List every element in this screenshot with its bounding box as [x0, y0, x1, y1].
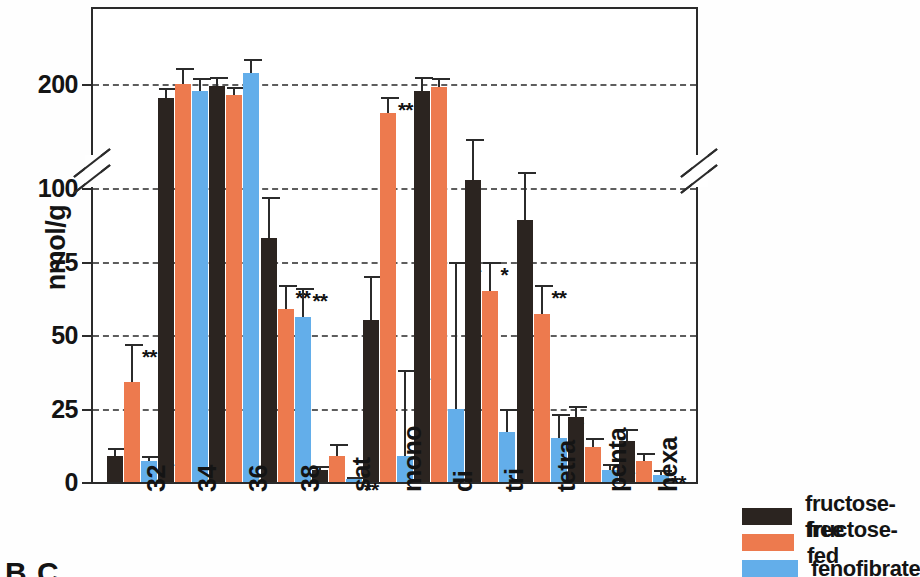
y-tick-label-25: 25	[51, 394, 78, 423]
tick-mark-75	[82, 262, 93, 264]
significance-marker-32-fructose-fed: **	[142, 346, 156, 367]
error-bar-34-fructose-free	[165, 88, 167, 98]
bar-group-hexa: **	[619, 9, 669, 482]
bar-tetra-fructose-fed	[534, 314, 550, 482]
tick-mark-200	[82, 84, 93, 86]
error-bar-mono-fructose-fed	[387, 97, 389, 113]
bar-34-fenofibrate	[192, 91, 208, 482]
bar-group-32: ****	[107, 9, 157, 482]
error-bar-tri-fenofibrate	[506, 409, 508, 433]
error-bar-tetra-fructose-free	[524, 172, 526, 220]
bar-fill	[209, 86, 225, 482]
error-bar-34-fructose-fed	[182, 68, 184, 84]
error-bar-32-fructose-fed	[131, 344, 133, 382]
tick-mark-25	[82, 409, 93, 411]
bar-tri-fructose-free	[465, 180, 481, 482]
x-tick-label-sat: sat	[347, 457, 376, 492]
error-bar-tri-fructose-fed	[489, 262, 491, 291]
bar-fill	[431, 87, 447, 482]
error-bar-tetra-fenofibrate	[558, 414, 560, 438]
error-bar-tri-fructose-free	[472, 139, 474, 180]
bar-32-fructose-fed	[124, 382, 140, 482]
y-tick-label-200: 200	[38, 70, 78, 99]
error-bar-38-fenofibrate	[302, 288, 304, 317]
error-bar-penta-fructose-free	[575, 406, 577, 418]
significance-marker-tri-fructose-fed: *	[500, 264, 507, 285]
error-bar-mono-fructose-free	[370, 276, 372, 320]
bar-34-fructose-free	[158, 98, 174, 482]
legend-swatch-fructose-free	[742, 508, 792, 525]
bar-mono-fructose-fed	[380, 113, 396, 482]
bar-fill	[278, 309, 294, 482]
bar-group-mono: ****	[363, 9, 413, 482]
bar-38-fructose-fed	[278, 309, 294, 482]
bar-group-tetra: ****	[517, 9, 567, 482]
bar-34-fructose-fed	[175, 84, 191, 482]
legend-item-fructose-fed: fructose-fed	[742, 531, 920, 554]
bar-fill	[243, 73, 259, 482]
error-bar-di-fenofibrate	[455, 262, 457, 409]
bar-38-fenofibrate	[295, 317, 311, 482]
bar-group-38: ****	[261, 9, 311, 482]
y-tick-label-50: 50	[51, 321, 78, 350]
x-tick-label-tetra: tetra	[552, 440, 581, 492]
bar-fill	[380, 113, 396, 482]
bar-fill	[414, 91, 430, 482]
bar-fill	[158, 98, 174, 482]
error-bar-hexa-fructose-fed	[643, 453, 645, 462]
bar-36-fructose-fed	[226, 95, 242, 482]
bar-fill	[295, 317, 311, 482]
x-tick-label-tri: tri	[500, 469, 529, 493]
bar-group-34	[158, 9, 208, 482]
bar-group-36	[209, 9, 259, 482]
x-tick-label-36: 36	[244, 465, 273, 492]
bar-fill	[329, 456, 345, 482]
bar-di-fructose-free	[414, 91, 430, 482]
error-bar-penta-fructose-fed	[592, 438, 594, 447]
bar-fill	[534, 314, 550, 482]
bar-group-tri: **	[465, 9, 515, 482]
tick-mark-100	[82, 188, 93, 190]
x-tick-label-34: 34	[193, 465, 222, 492]
y-tick-label-0: 0	[65, 468, 78, 497]
error-bar-32-fructose-free	[114, 448, 116, 455]
legend-swatch-fenofibrate	[742, 560, 798, 577]
bar-di-fructose-fed	[431, 87, 447, 482]
significance-marker-tetra-fructose-fed: **	[552, 287, 566, 308]
bar-fill	[175, 84, 191, 482]
bar-group-sat: **	[312, 9, 362, 482]
x-tick-label-mono: mono	[398, 426, 427, 492]
bar-groups: **************************	[93, 9, 696, 482]
bar-fill	[124, 382, 140, 482]
tick-mark-0	[82, 482, 93, 484]
bar-group-penta: **	[568, 9, 618, 482]
bar-36-fenofibrate	[243, 73, 259, 482]
error-bar-32-fenofibrate	[148, 456, 150, 462]
x-tick-label-di: di	[449, 471, 478, 492]
bar-fill	[226, 95, 242, 482]
bar-tri-fructose-fed	[482, 291, 498, 482]
tick-mark-50	[82, 335, 93, 337]
bar-fill	[482, 291, 498, 482]
legend-label: fenofibrate	[811, 556, 920, 577]
bar-32-fructose-free	[107, 456, 123, 482]
bar-fill	[107, 456, 123, 482]
error-bar-di-fructose-fed	[438, 78, 440, 87]
error-bar-sat-fructose-fed	[336, 444, 338, 456]
bar-fill	[585, 447, 601, 482]
x-tick-label-38: 38	[296, 465, 325, 492]
bar-tetra-fructose-free	[517, 220, 533, 482]
legend-swatch-fructose-fed	[742, 534, 794, 551]
error-bar-38-fructose-free	[268, 197, 270, 238]
panel-label: B.C	[5, 556, 60, 577]
bar-fill	[192, 91, 208, 482]
x-tick-label-penta: penta	[603, 428, 632, 492]
bar-fill	[261, 238, 277, 482]
error-bar-36-fenofibrate	[250, 59, 252, 73]
bar-fill	[517, 220, 533, 482]
plot-area: 0255075100200 **************************	[91, 7, 698, 484]
error-bar-34-fenofibrate	[199, 78, 201, 91]
error-bar-tetra-fructose-fed	[541, 285, 543, 314]
bar-36-fructose-free	[209, 86, 225, 482]
